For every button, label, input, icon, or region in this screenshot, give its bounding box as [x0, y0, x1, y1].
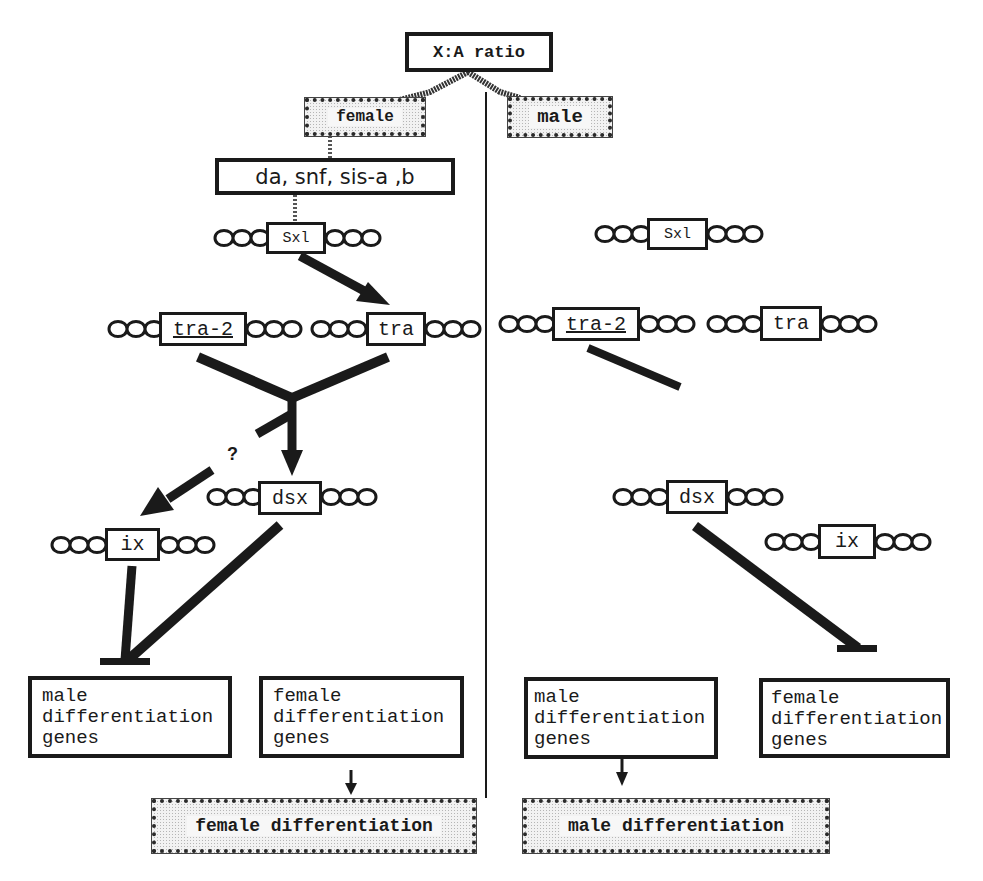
sxl-to-tra-arrow [300, 256, 390, 305]
gene-tra-female-label: tra [378, 318, 414, 341]
female-side-female-genes-box: female differentiation genes [259, 676, 464, 758]
xa-to-male-line [468, 72, 520, 98]
male-differentiation-label: male differentiation [560, 816, 792, 836]
gene-tra-male: tra [760, 306, 822, 341]
gene-tra2-male-label: tra-2 [566, 313, 626, 336]
gene-tra-male-label: tra [773, 312, 809, 335]
gene-dsx-male-label: dsx [679, 486, 715, 509]
female-genes-to-female-diff-arrow [345, 770, 357, 795]
male-side-male-genes-box: male differentiation genes [524, 677, 718, 759]
gene-ix-female-label: ix [120, 533, 144, 556]
gene-tra2-male: tra-2 [552, 307, 640, 341]
female-differentiation-label: female differentiation [187, 816, 441, 836]
gene-sxl-male-label: Sxl [664, 226, 691, 243]
regulators-label: da, snf, sis-a ,b [255, 165, 414, 189]
gene-tra2-female-label: tra-2 [173, 318, 233, 341]
gene-sxl-female-label: Sxl [282, 230, 309, 247]
xa-to-female-line [400, 72, 468, 100]
male-label: male [529, 106, 591, 128]
male-side-female-genes-box: female differentiation genes [759, 678, 950, 758]
gene-tra2-female: tra-2 [159, 312, 247, 346]
female-differentiation-outcome: female differentiation [152, 799, 476, 853]
female-label: female [328, 108, 402, 126]
ix-represses-male-genes [125, 566, 132, 660]
uncertain-question-mark: ? [227, 444, 238, 465]
female-node: female [305, 98, 425, 136]
gene-dsx-male: dsx [666, 480, 728, 514]
gene-ix-female: ix [105, 528, 160, 561]
xa-ratio-label: X:A ratio [433, 43, 525, 62]
regulators-node: da, snf, sis-a ,b [215, 158, 455, 195]
male-node: male [508, 97, 612, 137]
gene-tra-female: tra [366, 312, 426, 346]
male-genes-to-male-diff-arrow [616, 757, 628, 786]
gene-dsx-female-label: dsx [272, 487, 308, 510]
gene-sxl-female: Sxl [266, 222, 326, 254]
gene-ix-male: ix [818, 524, 876, 559]
gene-sxl-male: Sxl [647, 218, 708, 250]
male-differentiation-outcome: male differentiation [523, 799, 829, 853]
sex-determination-diagram: X:A ratio female male da, snf, sis-a ,b … [0, 0, 983, 881]
female-side-male-genes-box: male differentiation genes [28, 676, 232, 758]
gene-ix-male-label: ix [835, 530, 859, 553]
gene-dsx-female: dsx [258, 481, 322, 515]
xa-ratio-node: X:A ratio [405, 32, 553, 72]
tra2-male-inactive-bar [588, 348, 680, 387]
